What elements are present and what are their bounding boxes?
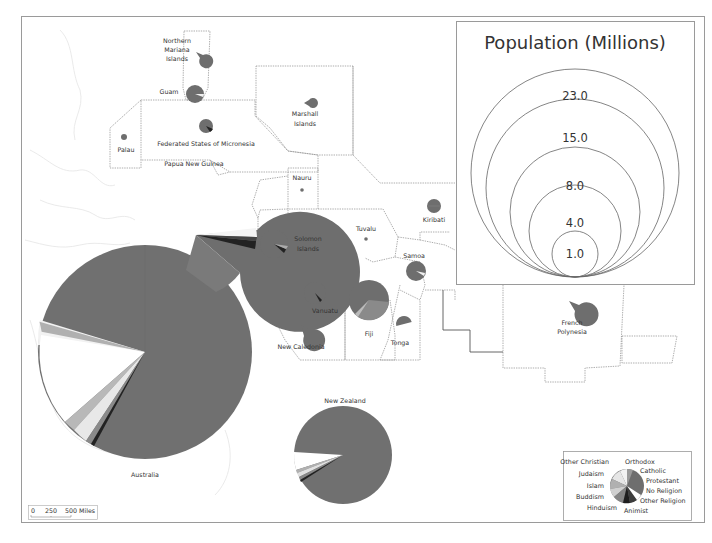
svg-text:Buddism: Buddism xyxy=(576,493,604,501)
svg-text:250: 250 xyxy=(45,507,57,514)
svg-text:Marshall: Marshall xyxy=(292,110,319,117)
svg-text:Protestant: Protestant xyxy=(646,477,679,485)
svg-text:Islam: Islam xyxy=(587,482,604,490)
svg-text:Mariana: Mariana xyxy=(164,46,189,53)
map-canvas: Population (Millions) 23.0 15.0 8.0 4.0 … xyxy=(0,0,712,543)
legend-value-23: 23.0 xyxy=(562,89,588,103)
svg-text:Other Religion: Other Religion xyxy=(640,497,686,505)
pie-nauru[interactable] xyxy=(300,188,304,192)
svg-text:Animist: Animist xyxy=(624,507,649,515)
svg-text:French: French xyxy=(562,319,583,326)
svg-text:No Religion: No Religion xyxy=(646,487,682,495)
svg-text:Tuvalu: Tuvalu xyxy=(355,225,376,232)
svg-text:Judaism: Judaism xyxy=(578,470,604,478)
pie-guam[interactable] xyxy=(186,85,204,103)
svg-text:Fiji: Fiji xyxy=(365,330,374,338)
svg-text:0: 0 xyxy=(31,507,35,514)
pie-micronesia[interactable] xyxy=(199,119,213,133)
svg-text:Other Christian: Other Christian xyxy=(560,458,609,466)
legend-value-8: 8.0 xyxy=(566,179,584,193)
svg-text:New Caledonia: New Caledonia xyxy=(277,343,324,350)
svg-text:Palau: Palau xyxy=(118,146,135,153)
pie-new-zealand[interactable] xyxy=(294,406,392,504)
svg-text:Australia: Australia xyxy=(131,471,159,478)
svg-text:Hinduism: Hinduism xyxy=(587,504,617,512)
pie-palau[interactable] xyxy=(121,134,127,140)
religion-legend: Other Christian Judaism Islam Buddism Hi… xyxy=(560,452,691,521)
svg-text:Samoa: Samoa xyxy=(403,252,425,259)
svg-text:Guam: Guam xyxy=(160,88,179,95)
svg-text:Solomon: Solomon xyxy=(294,235,321,242)
pie-kiribati[interactable] xyxy=(427,199,441,213)
svg-text:Orthodox: Orthodox xyxy=(625,458,655,466)
svg-text:Nauru: Nauru xyxy=(292,174,311,181)
svg-text:Islands: Islands xyxy=(297,245,319,252)
svg-text:Federated States of Micronesia: Federated States of Micronesia xyxy=(157,140,255,147)
pie-vanuatu[interactable] xyxy=(304,282,326,304)
svg-text:500 Miles: 500 Miles xyxy=(65,507,95,514)
svg-text:Polynesia: Polynesia xyxy=(557,328,587,336)
population-size-legend: Population (Millions) 23.0 15.0 8.0 4.0 … xyxy=(457,22,695,285)
svg-text:Vanuatu: Vanuatu xyxy=(312,307,338,314)
scale-bar: 0 250 500 Miles xyxy=(29,506,98,520)
legend-value-4: 4.0 xyxy=(566,216,584,230)
svg-text:Tonga: Tonga xyxy=(390,339,410,347)
pie-tuvalu[interactable] xyxy=(364,237,368,241)
svg-text:Papua New Guinea: Papua New Guinea xyxy=(164,160,223,168)
svg-text:Catholic: Catholic xyxy=(640,467,666,475)
svg-text:New Zealand: New Zealand xyxy=(324,397,365,404)
pie-samoa[interactable] xyxy=(406,261,426,281)
legend-value-1: 1.0 xyxy=(566,247,584,261)
svg-text:Kiribati: Kiribati xyxy=(423,216,446,223)
pie-solomon[interactable] xyxy=(260,230,288,258)
legend-title: Population (Millions) xyxy=(484,32,666,53)
legend-value-15: 15.0 xyxy=(562,131,588,145)
svg-text:Northern: Northern xyxy=(163,37,191,44)
svg-text:Islands: Islands xyxy=(166,55,188,62)
svg-text:Islands: Islands xyxy=(294,120,316,127)
